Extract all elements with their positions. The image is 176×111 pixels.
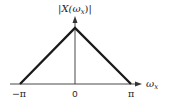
y-axis-label: |X(ωx)| bbox=[58, 3, 92, 16]
spectrum-diagram: |X(ωx)| ωx −π 0 π bbox=[0, 0, 176, 111]
tick-label-neg-pi: −π bbox=[12, 88, 26, 99]
x-axis-arrowhead-icon bbox=[135, 82, 142, 87]
triangle-spectrum bbox=[20, 28, 131, 84]
tick-label-pi: π bbox=[128, 88, 134, 99]
x-axis-label: ωx bbox=[146, 78, 158, 91]
y-axis-arrowhead-icon bbox=[73, 16, 78, 23]
tick-label-zero: 0 bbox=[72, 88, 77, 99]
